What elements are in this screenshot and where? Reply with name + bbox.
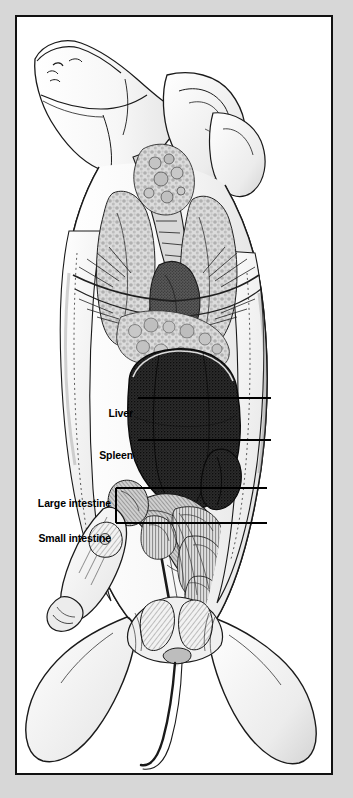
callout-label-text: Large intestine [38,497,111,509]
callout-label-text: Spleen [99,449,133,461]
callout-label-spleen: Spleen [99,450,133,461]
dog-anatomy-illustration [17,17,331,773]
callout-label-text: Liver [108,407,133,419]
callout-label-large-intestine: Large intestine [38,498,111,509]
callout-label-small-intestine: Small intestine [38,533,111,544]
callout-label-text: Small intestine [38,532,111,544]
figure-frame: Liver Spleen Large intestine Small intes… [15,15,333,775]
callout-label-liver: Liver [108,408,133,419]
